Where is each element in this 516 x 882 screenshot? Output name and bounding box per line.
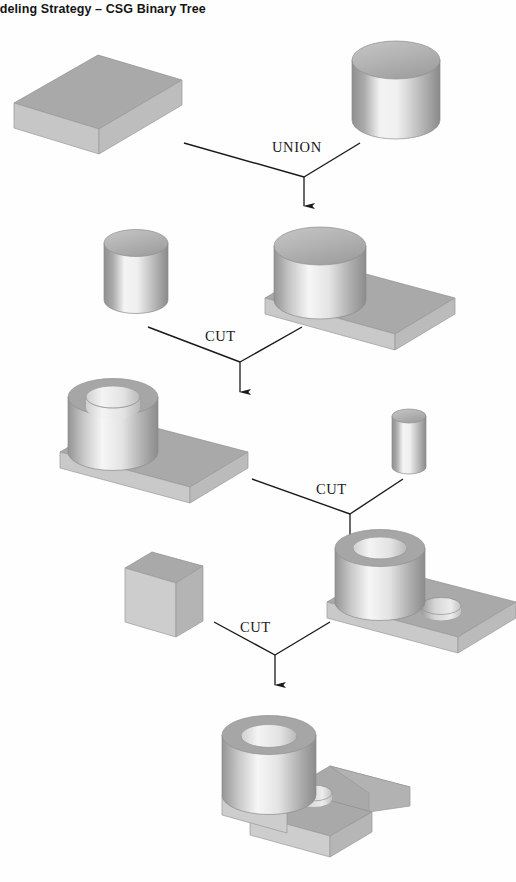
page-canvas: odeling Strategy – CSG Binary Tree <box>0 0 516 882</box>
operation-label-union: UNION <box>272 139 322 155</box>
shape-bracket-with-two-holes <box>327 530 516 654</box>
shape-cylinder-primitive-small <box>392 409 426 474</box>
operation-label-cut-3: CUT <box>240 619 271 635</box>
shape-cylinder-primitive-bore <box>104 230 168 314</box>
shape-cylinder-primitive-large <box>352 41 440 139</box>
csg-binary-tree-diagram: UNION CUT <box>0 0 516 882</box>
shape-final-slotted-bracket <box>222 716 410 858</box>
operation-label-cut-1: CUT <box>205 328 236 344</box>
shape-bored-cylinder-on-block <box>60 379 248 504</box>
connector-cut-3 <box>214 622 330 685</box>
shape-slab-block-primitive <box>125 552 203 637</box>
shape-rectangular-block <box>14 55 182 154</box>
operation-label-cut-2: CUT <box>316 481 347 497</box>
